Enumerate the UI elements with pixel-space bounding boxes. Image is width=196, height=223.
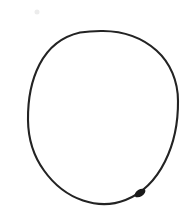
faint-speck-upper-left-mark — [35, 10, 40, 15]
circle-drawing — [0, 0, 196, 223]
paper-background — [0, 0, 196, 223]
drawing-canvas — [0, 0, 196, 223]
